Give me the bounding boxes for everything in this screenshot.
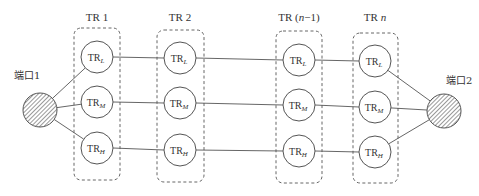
edge-port2-L <box>388 70 430 101</box>
edge-tr1-tr2-M <box>113 102 164 103</box>
edge-tr1-tr2-H <box>113 148 164 150</box>
node-trn-L: TRL <box>359 45 391 77</box>
edge-port1-M <box>57 104 81 107</box>
edge-port2-H <box>389 120 430 144</box>
stage-boxes <box>74 28 398 183</box>
node-trn-M: TRM <box>359 91 391 123</box>
node-trn1-M: TRM <box>283 89 315 121</box>
edge-tr1-tr2-L <box>113 57 164 58</box>
node-trn-H: TRH <box>359 136 391 168</box>
stage-label-trn1: TR (n−1) <box>278 11 320 24</box>
node-tr1-M: TRM <box>81 86 113 118</box>
stage-label-tr2: TR 2 <box>169 11 191 23</box>
edge-tr2-trn1-L <box>196 58 283 60</box>
edge-tr2-trn1-H <box>196 150 283 151</box>
port1-label: 端口1 <box>14 69 40 81</box>
edge-tr2-trn1-M <box>196 103 283 105</box>
port2-circle <box>427 94 461 128</box>
port2-label: 端口2 <box>446 74 472 86</box>
node-tr1-L: TRL <box>81 41 113 73</box>
edge-trn1-trn-L <box>315 60 359 61</box>
labels: TR 1TR 2TR (n−1)TR n端口1端口2 <box>14 11 472 86</box>
stage-label-tr1: TR 1 <box>86 11 108 23</box>
node-trn1-L: TRL <box>283 44 315 76</box>
edge-port2-M <box>391 108 427 110</box>
diagram-canvas: TRLTRMTRHTRLTRMTRHTRLTRMTRHTRLTRMTRH TR … <box>0 0 479 196</box>
node-tr2-H: TRH <box>164 134 196 166</box>
node-tr1-H: TRH <box>81 132 113 164</box>
edge-port1-H <box>54 119 84 139</box>
port1-circle <box>23 93 57 127</box>
node-tr2-M: TRM <box>164 87 196 119</box>
edge-port1-L <box>52 68 85 99</box>
node-trn1-H: TRH <box>283 135 315 167</box>
stage-label-trn: TR n <box>364 11 387 23</box>
node-tr2-L: TRL <box>164 42 196 74</box>
